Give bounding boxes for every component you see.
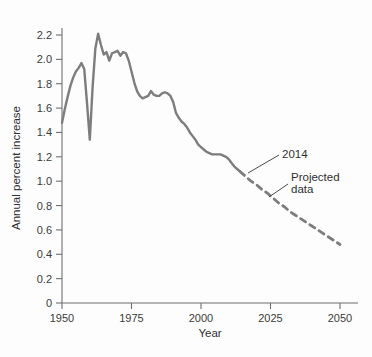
x-tick-label: 2050 [328,312,352,324]
chart-figure: 00.20.40.60.81.01.21.41.61.82.02.2 19501… [0,0,372,357]
y-tick-label: 1.2 [37,151,52,163]
y-tick-label: 2.2 [37,29,52,41]
x-axis-title: Year [198,327,221,339]
y-tick-label: 0.4 [37,248,52,260]
y-tick-label: 1.6 [37,102,52,114]
y-tick-label: 0 [46,297,52,309]
x-tick-label: 1975 [119,312,143,324]
y-tick-label: 0.8 [37,200,52,212]
y-tick-label: 1.0 [37,175,52,187]
population-growth-line-chart: 00.20.40.60.81.01.21.41.61.82.02.2 19501… [0,0,372,357]
x-tick-label: 2000 [189,312,213,324]
x-tick-label: 1950 [50,312,74,324]
y-tick-label: 1.8 [37,78,52,90]
y-tick-label: 0.2 [37,273,52,285]
y-axis-title: Annual percent increase [10,106,22,230]
y-tick-label: 2.0 [37,53,52,65]
annotation-2014-label: 2014 [282,148,308,160]
annotation-projected-label-line2: data [291,183,314,195]
x-tick-label: 2025 [258,312,282,324]
y-tick-label: 0.6 [37,224,52,236]
annotation-projected-label-line1: Projected [291,171,340,183]
y-tick-label: 1.4 [37,126,52,138]
